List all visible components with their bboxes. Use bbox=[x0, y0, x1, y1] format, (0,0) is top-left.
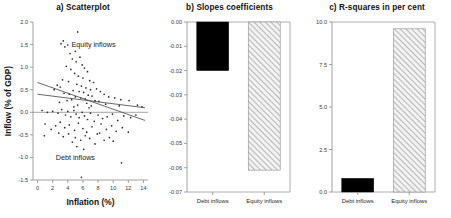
scatter-point bbox=[71, 58, 73, 60]
scatter-point bbox=[68, 133, 70, 135]
scatter-point bbox=[112, 140, 114, 142]
scatter-point bbox=[102, 118, 104, 120]
scatter-point bbox=[73, 110, 75, 112]
scatter-point bbox=[65, 65, 67, 67]
scatter-point bbox=[71, 141, 73, 143]
scatter-point bbox=[62, 136, 64, 138]
annotation-equity-inflows: Equity inflows bbox=[72, 40, 116, 49]
scatter-point bbox=[44, 135, 46, 137]
panel-a-xtick: 4 bbox=[66, 185, 69, 191]
panel-a-ytick: -1.5 bbox=[18, 177, 28, 183]
scatter-point bbox=[103, 139, 105, 141]
panel-b-ytick: -0.01 bbox=[169, 43, 182, 49]
scatter-point bbox=[86, 131, 88, 133]
scatter-point bbox=[59, 86, 61, 88]
scatter-point bbox=[103, 93, 105, 95]
panel-a-xtick: 8 bbox=[97, 185, 100, 191]
annotation-debt-inflows: Debt inflows bbox=[56, 153, 96, 162]
scatter-point bbox=[130, 117, 132, 119]
scatter-point bbox=[72, 90, 74, 92]
scatter-point bbox=[86, 102, 88, 104]
scatter-point bbox=[77, 31, 79, 33]
panel-a-ytick: 0.5 bbox=[20, 87, 28, 93]
scatter-point bbox=[137, 104, 139, 106]
scatter-point bbox=[75, 113, 77, 115]
panel-a-yaxis-title: Inflow (% of GDP) bbox=[3, 66, 13, 136]
panel-b-ytick: 0.00 bbox=[171, 19, 182, 25]
scatter-point bbox=[90, 105, 92, 107]
panel-c-ytick: 2.5 bbox=[319, 147, 327, 153]
scatter-point bbox=[96, 88, 98, 90]
scatter-point bbox=[78, 117, 80, 119]
scatter-point bbox=[96, 133, 98, 135]
scatter-point bbox=[112, 113, 114, 115]
scatter-point bbox=[99, 91, 101, 93]
scatter-point bbox=[58, 132, 60, 134]
scatter-point bbox=[81, 111, 83, 113]
scatter-point bbox=[88, 107, 90, 109]
scatter-point bbox=[89, 80, 91, 82]
scatter-point bbox=[70, 69, 72, 71]
scatter-point bbox=[52, 111, 54, 113]
panel-a-ytick: 0.0 bbox=[20, 109, 28, 115]
scatter-point bbox=[50, 129, 52, 131]
scatter-point bbox=[118, 105, 120, 107]
panel-a-ytick: 2.0 bbox=[20, 19, 28, 25]
scatter-point bbox=[97, 114, 99, 116]
scatter-point bbox=[135, 114, 137, 116]
scatter-point bbox=[67, 111, 69, 113]
scatter-point bbox=[70, 116, 72, 118]
scatter-point bbox=[77, 104, 79, 106]
panel-c-ytick: 0.0 bbox=[319, 189, 327, 195]
panel-b-ytick: -0.07 bbox=[169, 189, 182, 195]
scatter-point bbox=[76, 146, 78, 148]
panel-a-plot: -1.5-1.0-0.50.00.51.01.52.002468101214Eq… bbox=[0, 0, 152, 218]
scatter-point bbox=[62, 40, 64, 42]
scatter-point bbox=[84, 115, 86, 117]
panel-b-category-label: Equity inflows bbox=[246, 198, 282, 204]
panel-a-xaxis-title: Inflation (%) bbox=[67, 197, 115, 207]
panel-b-bar bbox=[248, 22, 280, 170]
panel-c-bar bbox=[393, 29, 425, 192]
panel-c-bar bbox=[342, 178, 374, 192]
scatter-point bbox=[78, 91, 80, 93]
panel-b-ytick: -0.05 bbox=[169, 140, 182, 146]
panel-c-ytick: 5.0 bbox=[319, 104, 327, 110]
scatter-point bbox=[82, 128, 84, 130]
scatter-point bbox=[69, 53, 71, 55]
panel-a-ytick: 1.0 bbox=[20, 64, 28, 70]
scatter-point bbox=[85, 87, 87, 89]
panel-c-rsquares: c) R-squares in per cent 0.02.55.07.510.… bbox=[297, 0, 451, 218]
scatter-point bbox=[87, 71, 89, 73]
scatter-point bbox=[121, 162, 123, 164]
scatter-point bbox=[105, 103, 107, 105]
figure-container: a) Scatterplot -1.5-1.0-0.50.00.51.01.52… bbox=[0, 0, 451, 218]
panel-a-xtick: 0 bbox=[36, 185, 39, 191]
scatter-point bbox=[84, 135, 86, 137]
panel-c-category-label: Equity inflows bbox=[391, 198, 427, 204]
scatter-point bbox=[75, 50, 77, 52]
scatter-point bbox=[71, 99, 73, 101]
scatter-point bbox=[80, 139, 82, 141]
panel-b-ytick: -0.02 bbox=[169, 68, 182, 74]
scatter-point bbox=[127, 131, 129, 133]
scatter-point bbox=[94, 143, 96, 145]
scatter-point bbox=[81, 85, 83, 87]
scatter-point bbox=[81, 176, 83, 178]
scatter-point bbox=[90, 89, 92, 91]
scatter-point bbox=[93, 120, 95, 122]
scatter-point bbox=[90, 112, 92, 114]
scatter-point bbox=[68, 81, 70, 83]
panel-a-xtick: 12 bbox=[125, 185, 131, 191]
scatter-point bbox=[53, 89, 55, 91]
panel-a-ytick: -1.0 bbox=[18, 154, 28, 160]
scatter-point bbox=[67, 44, 69, 46]
scatter-point bbox=[68, 124, 70, 126]
scatter-point bbox=[123, 115, 125, 117]
regression-line bbox=[38, 82, 145, 120]
scatter-point bbox=[87, 119, 89, 121]
scatter-point bbox=[63, 92, 65, 94]
scatter-point bbox=[111, 125, 113, 127]
scatter-point bbox=[75, 137, 77, 139]
panel-b-ytick: -0.06 bbox=[169, 165, 182, 171]
